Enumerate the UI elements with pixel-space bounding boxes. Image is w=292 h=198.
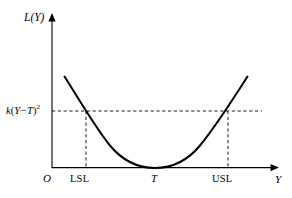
quadratic-loss-curve [65, 77, 248, 169]
x-axis-title: Y [275, 174, 281, 185]
y-axis-title: L(Y) [24, 12, 44, 24]
loss-function-plot [0, 0, 292, 198]
loss-level-exponent: 2 [36, 103, 40, 111]
target-label: T [151, 173, 157, 184]
loss-function-figure: L(Y) k(Y−T)2 O LSL T USL Y [0, 0, 292, 198]
loss-level-label: k(Y−T)2 [6, 104, 40, 116]
y-axis [48, 13, 55, 168]
y-axis-arrowhead [48, 13, 55, 22]
x-axis-arrowhead [271, 164, 280, 171]
usl-label: USL [212, 174, 232, 185]
loss-level-expression: Y−T [14, 105, 33, 116]
origin-label: O [43, 173, 51, 184]
lsl-label: LSL [70, 174, 89, 185]
